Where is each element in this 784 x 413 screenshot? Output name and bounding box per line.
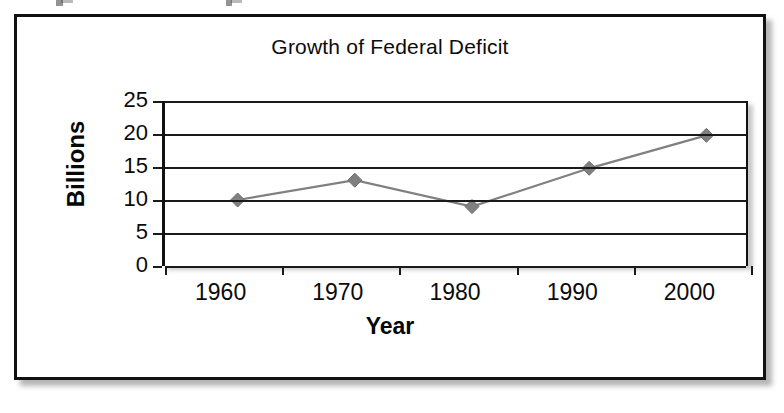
- series-line-chart: [179, 101, 765, 266]
- y-axis-tick: [153, 167, 162, 169]
- y-axis-tick: [153, 134, 162, 136]
- screenshot-root: Growth of Federal Deficit Billions 05101…: [0, 0, 784, 413]
- x-tick-label: 1990: [514, 279, 631, 309]
- x-axis-tick: [399, 266, 401, 275]
- scan-artifact: [61, 0, 73, 3]
- gridline: [165, 134, 746, 136]
- chart-figure-frame: Growth of Federal Deficit Billions 05101…: [14, 14, 766, 380]
- chart-title: Growth of Federal Deficit: [17, 35, 763, 59]
- y-tick-label: 25: [114, 87, 148, 113]
- series-line: [238, 135, 707, 206]
- y-axis-tick: [153, 101, 162, 103]
- x-tick-label: 2000: [631, 279, 748, 309]
- x-axis-tick: [282, 266, 284, 275]
- plot-area: [162, 101, 748, 266]
- gridline: [165, 266, 746, 268]
- gridline: [165, 101, 746, 103]
- y-tick-label-group: 0510152025: [108, 101, 148, 273]
- gridline: [165, 200, 746, 202]
- x-axis-tick: [634, 266, 636, 275]
- y-tick-label: 20: [114, 120, 148, 146]
- plot-wrapper: 0510152025 19601970198019902000: [148, 101, 748, 273]
- y-tick-label: 10: [114, 186, 148, 212]
- y-tick-label: 0: [114, 252, 148, 278]
- y-axis-tick: [153, 200, 162, 202]
- y-axis-title: Billions: [62, 99, 90, 229]
- x-axis-tick: [165, 266, 167, 275]
- y-tick-label: 15: [114, 153, 148, 179]
- x-tick-label: 1980: [396, 279, 513, 309]
- x-tick-label: 1970: [279, 279, 396, 309]
- x-axis-title: Year: [17, 313, 763, 340]
- x-tick-label: 1960: [162, 279, 279, 309]
- y-axis-tick: [153, 233, 162, 235]
- x-axis-tick: [751, 266, 753, 275]
- y-tick-label: 5: [114, 219, 148, 245]
- gridline: [165, 233, 746, 235]
- x-tick-label-group: 19601970198019902000: [162, 279, 748, 309]
- data-point-marker: [348, 173, 362, 187]
- y-axis-tick: [153, 266, 162, 268]
- x-axis-tick: [517, 266, 519, 275]
- gridline: [165, 167, 746, 169]
- scan-artifact: [231, 0, 242, 3]
